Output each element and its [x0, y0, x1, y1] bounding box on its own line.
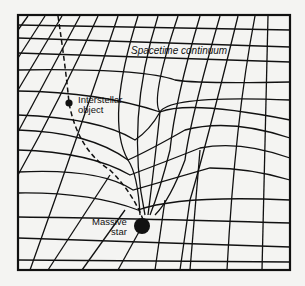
diagram-title: Spacetime continuum — [131, 46, 227, 56]
massive-star-icon — [134, 218, 150, 234]
object-label-line2: object — [78, 105, 122, 115]
massive-star-label: Massive star — [92, 217, 127, 237]
interstellar-object-icon — [65, 99, 72, 106]
star-label-line2: star — [92, 227, 127, 237]
spacetime-diagram — [0, 0, 305, 286]
interstellar-object-label: Interstellar object — [78, 95, 122, 115]
